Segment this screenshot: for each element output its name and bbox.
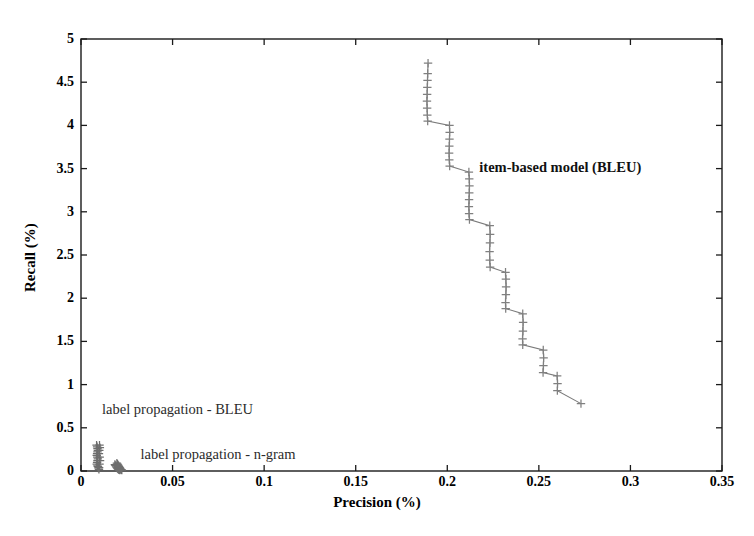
chart-figure: 00.050.10.150.20.250.30.35 00.511.522.53…	[0, 0, 754, 536]
data-point-marker	[539, 368, 547, 376]
data-point-marker	[519, 327, 527, 335]
data-point-marker	[553, 372, 561, 380]
x-tick-label-5: 0.25	[527, 474, 552, 490]
data-point-marker	[539, 346, 547, 354]
data-point-marker	[577, 399, 585, 407]
series-2	[111, 459, 126, 474]
y-tick-label-10: 5	[67, 31, 74, 47]
x-tick-label-7: 0.35	[710, 474, 735, 490]
data-point-marker	[486, 221, 494, 229]
y-tick-label-9: 4.5	[57, 74, 75, 90]
data-point-marker	[485, 247, 493, 255]
annotation-label-propagation-ngram: label propagation - n-gram	[141, 446, 296, 463]
data-point-marker	[519, 341, 527, 349]
y-tick-label-3: 1.5	[57, 333, 75, 349]
precision-recall-plot	[0, 0, 754, 536]
data-point-marker	[424, 59, 432, 67]
data-point-marker	[502, 291, 510, 299]
data-point-marker	[539, 354, 547, 362]
x-tick-label-3: 0.15	[343, 474, 368, 490]
y-tick-label-6: 3	[67, 204, 74, 220]
data-point-marker	[502, 283, 510, 291]
y-tick-label-1: 0.5	[57, 420, 75, 436]
x-tick-label-0: 0	[78, 474, 85, 490]
series-1	[92, 441, 104, 474]
annotation-label-propagation-bleu: label propagation - BLEU	[102, 401, 253, 418]
y-tick-label-0: 0	[67, 463, 74, 479]
data-point-marker	[519, 310, 527, 318]
data-point-marker	[465, 215, 473, 223]
y-tick-label-8: 4	[67, 117, 74, 133]
y-tick-label-2: 1	[67, 377, 74, 393]
y-tick-label-5: 2.5	[57, 247, 75, 263]
y-tick-label-7: 3.5	[57, 161, 75, 177]
x-tick-label-1: 0.05	[160, 474, 185, 490]
x-axis-label: Precision (%)	[0, 494, 754, 511]
x-tick-label-4: 0.2	[439, 474, 457, 490]
x-tick-label-6: 0.3	[622, 474, 640, 490]
data-point-marker	[445, 162, 453, 170]
data-point-marker	[423, 117, 431, 125]
data-point-marker	[486, 263, 494, 271]
annotation-item-based-model: item-based model (BLEU)	[479, 159, 641, 176]
x-tick-label-2: 0.1	[255, 474, 273, 490]
y-tick-label-4: 2	[67, 290, 74, 306]
data-point-marker	[502, 275, 510, 283]
y-axis-label: Recall (%)	[22, 223, 39, 292]
data-point-marker	[486, 230, 494, 238]
data-point-marker	[502, 304, 510, 312]
series-line-0	[427, 63, 581, 403]
data-point-marker	[553, 386, 561, 394]
series-0	[423, 59, 585, 408]
data-point-marker	[486, 239, 494, 247]
data-point-marker	[519, 318, 527, 326]
